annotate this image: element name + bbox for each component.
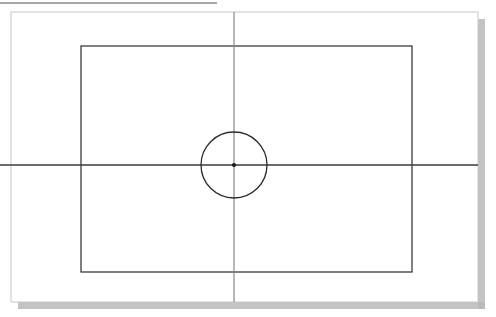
page-shadow-right xyxy=(478,19,485,309)
drawing-canvas xyxy=(0,0,496,317)
center-point-marker xyxy=(232,163,236,167)
technical-drawing-svg xyxy=(0,0,496,317)
page-shadow-bottom xyxy=(18,302,485,309)
